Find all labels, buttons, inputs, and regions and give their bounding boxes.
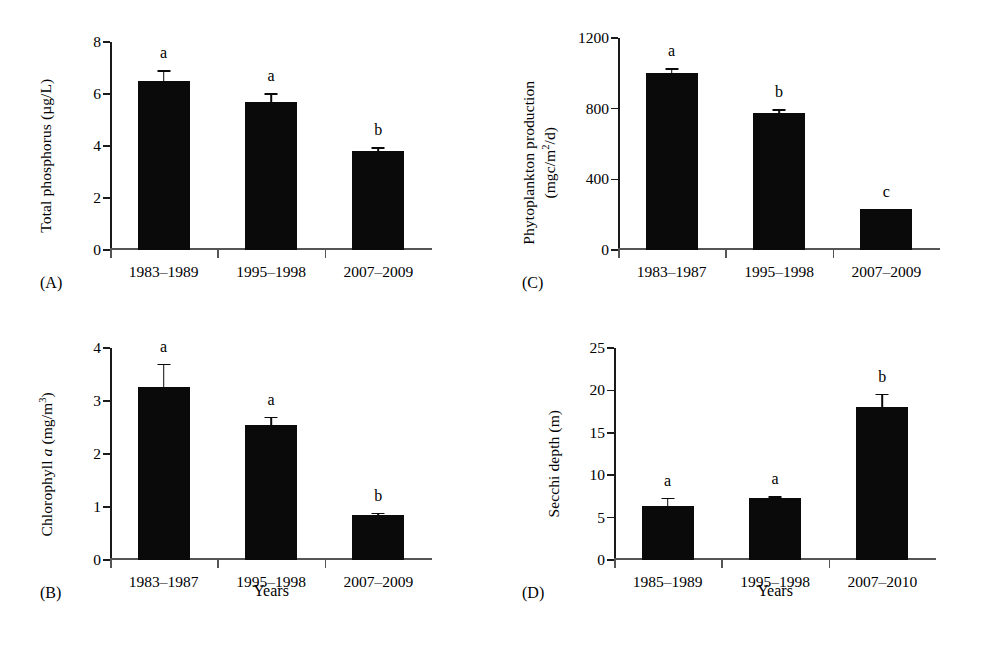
x-tick-mark [829,560,831,568]
panel-d: Secchi depth (m) 0510152025a1985–1989a19… [500,326,999,652]
significance-letter: b [878,368,886,386]
y-tick-mark [607,347,614,349]
y-tick-label: 8 [93,33,101,51]
panel-a-plot-area: 02468a1983–1989a1995–1998b2007–2009 [110,42,432,250]
x-tick-label: 1995–1998 [744,263,814,281]
error-bar-stem [163,70,165,81]
significance-letter: b [374,121,382,139]
y-tick-label: 2 [93,445,101,463]
bar [646,73,698,250]
y-axis-line [618,38,620,250]
y-tick-mark [103,559,110,561]
y-tick-mark [103,93,110,95]
x-tick-label: 1983–1987 [129,573,199,591]
panel-b-x-axis-title: Years [253,582,289,600]
x-tick-label: 1985–1989 [633,573,703,591]
panel-b-ylabel-superscript: 3 [37,397,48,402]
significance-letter: b [775,83,783,101]
panel-c-y-axis-label: Phytoplankton production (mgc/m2/d) [519,43,560,283]
bar [860,209,912,250]
x-tick-mark [833,250,835,258]
bar [749,498,801,560]
significance-letter: c [883,183,890,201]
panel-b-tag: (B) [40,584,61,602]
error-bar-cap [372,147,385,149]
y-tick-mark [611,108,618,110]
panel-a-y-axis-label: Total phosphorus (µg/L) [36,36,55,276]
y-tick-mark [607,474,614,476]
y-tick-label: 10 [590,466,606,484]
panel-a: Total phosphorus (µg/L) 02468a1983–1989a… [0,0,500,326]
y-tick-mark [103,145,110,147]
y-tick-mark [607,432,614,434]
error-bar-cap [661,498,674,500]
x-tick-mark [110,250,112,258]
y-tick-mark [611,249,618,251]
significance-letter: a [267,67,274,85]
bar [856,407,908,560]
y-tick-label: 3 [93,392,101,410]
y-tick-mark [611,37,618,39]
x-tick-label: 1983–1987 [637,263,707,281]
y-tick-label: 25 [590,339,606,357]
panel-b: Chlorophyll a (mg/m3) 01234a1983–1987a19… [0,326,500,652]
y-tick-mark [607,390,614,392]
y-tick-label: 0 [597,551,605,569]
y-tick-label: 0 [601,241,609,259]
x-tick-label: 2007–2010 [847,573,917,591]
x-tick-mark [217,250,219,258]
y-tick-label: 5 [597,509,605,527]
y-tick-mark [611,179,618,181]
panel-c-plot-area: 04008001200a1983–1987b1995–1998c2007–200… [618,38,940,250]
error-bar-cap [157,364,170,366]
x-tick-mark [725,250,727,258]
y-tick-mark [103,506,110,508]
panel-c-ylabel-line2-suffix: /d) [542,127,559,145]
error-bar-cap [157,70,170,72]
bar [352,151,404,250]
error-bar-cap [665,68,678,70]
y-tick-mark [103,453,110,455]
y-tick-label: 20 [590,381,606,399]
y-axis-line [110,42,112,250]
y-axis-line [614,348,616,560]
y-tick-label: 15 [590,424,606,442]
panel-d-y-axis-label: Secchi depth (m) [544,359,563,569]
panel-c-tag: (C) [522,274,543,292]
x-tick-mark [614,560,616,568]
bar [245,425,297,560]
y-tick-mark [103,249,110,251]
error-bar-cap [773,109,786,111]
panel-b-y-axis-label: Chlorophyll a (mg/m3) [36,344,57,584]
y-tick-label: 400 [586,170,609,188]
panel-c-ylabel-superscript: 2 [540,144,551,149]
panel-c-ylabel-line1: Phytoplankton production [520,81,537,245]
y-tick-label: 4 [93,339,101,357]
y-axis-line [110,348,112,560]
x-tick-label: 1983–1989 [129,263,199,281]
error-bar-stem [163,364,165,387]
x-tick-mark [217,560,219,568]
panel-a-tag: (A) [40,274,62,292]
x-tick-label: 1995–1998 [236,263,306,281]
error-bar-cap [876,394,889,396]
y-tick-label: 800 [586,100,609,118]
panel-d-plot-area: 0510152025a1985–1989a1995–1998b2007–2010 [614,348,936,560]
y-tick-label: 4 [93,137,101,155]
significance-letter: a [267,391,274,409]
panel-d-x-axis-title: Years [757,582,793,600]
x-tick-mark [325,250,327,258]
error-bar-cap [372,513,385,515]
significance-letter: b [374,487,382,505]
x-tick-label: 2007–2009 [343,573,413,591]
panel-b-ylabel-end: ) [38,392,55,397]
panel-c: Phytoplankton production (mgc/m2/d) 0400… [500,0,999,326]
y-tick-label: 1 [93,498,101,516]
panel-d-tag: (D) [522,584,544,602]
x-tick-label: 2007–2009 [851,263,921,281]
significance-letter: a [160,44,167,62]
panel-b-plot-area: 01234a1983–1987a1995–1998b2007–2009 [110,348,432,560]
y-tick-mark [103,41,110,43]
bar [138,387,190,560]
significance-letter: a [771,470,778,488]
